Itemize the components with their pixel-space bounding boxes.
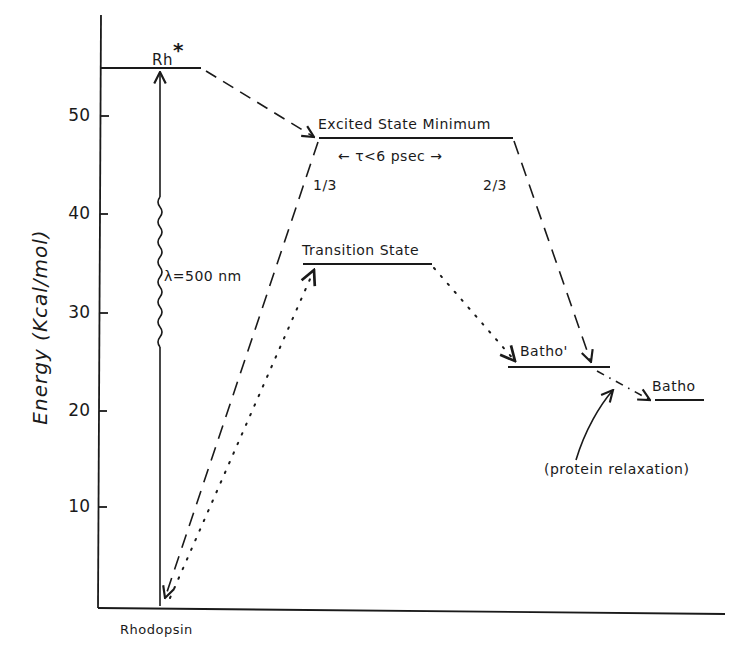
y-axis-label: Energy (Kcal/mol) [28, 227, 52, 427]
transition-state-label: Transition State [302, 242, 419, 258]
batho-label: Batho [652, 378, 696, 394]
x-axis [98, 608, 725, 614]
y-axis [98, 15, 101, 608]
energy-diagram [0, 0, 736, 649]
wavelength-label: λ=500 nm [164, 268, 242, 284]
one-third-label: 1/3 [313, 177, 337, 193]
two-third-label: 2/3 [483, 177, 507, 193]
protein-relaxation-label: (protein relaxation) [544, 461, 689, 477]
excited-state-label: Excited State Minimum [318, 116, 491, 132]
decay-to-batho-prime-arrow [514, 141, 591, 362]
tick-50: 50 [50, 105, 90, 125]
rhodopsin-label: Rhodopsin [120, 622, 193, 637]
tick-40: 40 [50, 203, 90, 223]
absorption-arrow [158, 72, 162, 606]
batho-prime-label: Batho' [520, 343, 568, 359]
transition-to-batho-prime-arrow [434, 268, 515, 361]
star-superscript: * [173, 38, 184, 62]
rh-text: Rh [152, 51, 173, 69]
relaxation-pointer-arrow [576, 390, 613, 460]
tau-label: ← τ<6 psec → [338, 148, 442, 164]
tick-20: 20 [50, 400, 90, 420]
relax-to-excited-arrow [206, 71, 314, 137]
rh-star-label: Rh* [152, 46, 184, 70]
tick-10: 10 [50, 496, 90, 516]
tick-30: 30 [50, 302, 90, 322]
decay-to-rhodopsin-arrow [165, 142, 318, 598]
ground-to-transition-arrow [170, 270, 314, 598]
batho-prime-to-batho-arrow [597, 371, 650, 400]
